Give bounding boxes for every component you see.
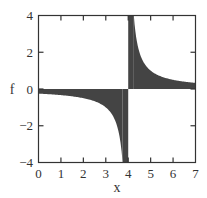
x-tick-label: 3 <box>103 166 110 181</box>
shaded-area <box>128 16 134 90</box>
y-tick-label: 2 <box>27 45 34 60</box>
y-axis-label: f <box>10 82 15 97</box>
y-tick-label: 4 <box>27 8 34 23</box>
y-tick-labels: 420−2−4 <box>19 8 33 170</box>
plot-area <box>39 16 196 163</box>
x-tick-label: 2 <box>80 166 87 181</box>
shaded-area <box>123 89 129 163</box>
x-tick-label: 7 <box>192 166 199 181</box>
x-tick-label: 1 <box>58 166 65 181</box>
x-tick-labels: 01234567 <box>35 166 199 181</box>
x-tick-label: 5 <box>147 166 154 181</box>
y-tick-label: −2 <box>19 118 33 133</box>
x-tick-label: 6 <box>170 166 177 181</box>
x-tick-label: 0 <box>35 166 42 181</box>
shaded-area <box>39 89 123 163</box>
y-tick-label: 0 <box>27 82 34 97</box>
shaded-area <box>134 16 196 90</box>
y-tick-label: −4 <box>19 155 33 170</box>
x-axis-label: x <box>114 180 121 195</box>
chart: 01234567 420−2−4 x f <box>0 0 207 198</box>
x-tick-label: 4 <box>125 166 132 181</box>
